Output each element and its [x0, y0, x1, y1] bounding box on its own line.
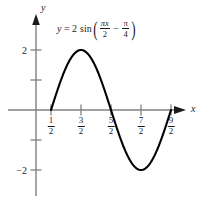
x-tick-label-3-2-numerator: 3 — [78, 116, 85, 125]
x-tick-label-3-2: 3 2 — [77, 116, 86, 137]
x-tick-label-3-2-denominator: 2 — [78, 127, 85, 136]
x-tick-label-5-2-fraction: 5 2 — [108, 116, 115, 137]
x-tick-label-7-2-denominator: 2 — [138, 127, 145, 136]
equation-arg1-denominator: 2 — [102, 30, 108, 39]
equation-equals: = — [64, 24, 70, 34]
equation-label: y = 2 sin ( πx 2 − π 4 ) — [57, 19, 137, 39]
equation-open-paren: ( — [93, 21, 97, 38]
equation-arg2-numerator: π — [122, 19, 128, 28]
x-tick-label-1-2: 1 2 — [47, 116, 56, 137]
x-tick-label-5-2-numerator: 5 — [108, 116, 115, 125]
x-tick-label-9-2: 9 2 — [167, 116, 176, 137]
x-axis-arrowhead — [174, 106, 186, 114]
y-axis-label: y — [41, 2, 45, 13]
x-tick-label-9-2-denominator: 2 — [168, 127, 175, 136]
equation-arg1-numerator: πx — [100, 19, 110, 28]
equation-arg2-denominator: 4 — [122, 30, 128, 39]
x-tick-label-7-2-numerator: 7 — [138, 116, 145, 125]
x-tick-label-9-2-fraction: 9 2 — [168, 116, 175, 137]
y-tick-label-2: 2 — [14, 45, 27, 56]
equation-lhs: y — [57, 24, 61, 34]
x-tick-label-3-2-fraction: 3 2 — [78, 116, 85, 137]
x-tick-label-1-2-numerator: 1 — [48, 116, 55, 125]
sine-graph-figure: y = 2 sin ( πx 2 − π 4 ) y x 1 2 3 2 — [0, 0, 209, 204]
x-tick-label-1-2-fraction: 1 2 — [48, 116, 55, 137]
x-tick-label-1-2-denominator: 2 — [48, 127, 55, 136]
x-tick-label-7-2-fraction: 7 2 — [138, 116, 145, 137]
equation-arg1-fraction: πx 2 — [100, 19, 110, 39]
x-tick-label-9-2-numerator: 9 — [168, 116, 175, 125]
y-axis-arrowhead — [32, 14, 40, 25]
x-tick-label-5-2: 5 2 — [107, 116, 116, 137]
equation-arg2-fraction: π 4 — [122, 19, 128, 39]
equation-amplitude: 2 — [72, 24, 77, 34]
y-tick-label-minus-2: −2 — [8, 165, 27, 176]
equation-function: sin — [80, 24, 92, 34]
x-tick-label-7-2: 7 2 — [137, 116, 146, 137]
x-tick-label-5-2-denominator: 2 — [108, 127, 115, 136]
equation-close-paren: ) — [131, 21, 135, 38]
x-axis-label: x — [191, 103, 195, 114]
equation-minus: − — [113, 24, 119, 34]
